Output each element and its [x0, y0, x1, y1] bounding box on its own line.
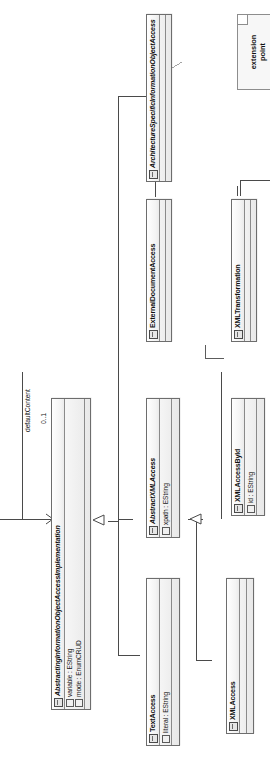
- class-external-document-access[interactable]: ExternalDocumentAccess: [146, 199, 172, 342]
- generalization-arrow-asioai: [93, 515, 104, 525]
- class-operations-compartment: [257, 399, 264, 515]
- class-operations-compartment: [172, 579, 179, 745]
- class-name: ArchitectureSpecificInformationObjectAcc…: [149, 20, 158, 168]
- class-name: AbstractXMLAccess: [149, 458, 158, 524]
- gen-xmlacc-to-absxml: [196, 519, 212, 660]
- class-icon: [149, 734, 158, 743]
- class-header: AbstractXMLAccess: [147, 399, 160, 537]
- generalization-arrow-absxml: [190, 514, 201, 524]
- attribute-icon: [162, 527, 170, 535]
- attribute-icon: [247, 505, 255, 513]
- class-xml-access-by-id[interactable]: XMLAccessById id : EString: [231, 398, 265, 516]
- class-name: XMLAccess: [229, 682, 238, 720]
- attribute-label: literal : EString: [162, 692, 170, 733]
- xmltransformation-wire-right: [240, 180, 270, 196]
- class-name: XMLTransformation: [234, 264, 243, 328]
- class-name: AbstractingInformationObjectAccessImplem…: [54, 525, 63, 696]
- attribute-icon: [162, 735, 170, 743]
- class-icon: [234, 330, 243, 339]
- class-operations-compartment: [85, 399, 90, 709]
- note-anchor-line: [172, 62, 182, 68]
- class-name: XMLAccessById: [234, 449, 243, 502]
- class-header: ArchitectureSpecificInformationObjectAcc…: [147, 15, 160, 181]
- class-text-access[interactable]: TextAccess literal : EString: [146, 578, 180, 746]
- class-icon: [149, 330, 158, 339]
- attribute-row: id : EString: [247, 401, 255, 513]
- class-header: AbstractingInformationObjectAccessImplem…: [52, 399, 65, 709]
- class-attributes-compartment: literal : EString: [160, 579, 172, 745]
- class-operations-compartment: [166, 200, 171, 341]
- attribute-label: mode : EnumCRUD: [75, 640, 83, 697]
- class-operations-compartment: [251, 200, 256, 341]
- class-abstracting-information-object-access-implementation[interactable]: AbstractingInformationObjectAccessImplem…: [51, 398, 91, 710]
- class-icon: [229, 722, 238, 731]
- class-attributes-compartment: variable : EString mode : EnumCRUD: [65, 399, 85, 709]
- class-attributes-compartment: id : EString: [245, 399, 257, 515]
- gen-eda-to-asioa: [148, 180, 155, 197]
- attribute-row: xpath : EString: [162, 401, 170, 535]
- class-icon: [149, 526, 158, 535]
- association-label-default-content: defaultContent: [24, 389, 32, 432]
- class-icon: [149, 170, 158, 179]
- class-icon: [54, 698, 63, 707]
- class-header: ExternalDocumentAccess: [147, 200, 160, 341]
- note-extension-point: extension point: [237, 14, 270, 90]
- class-header: XMLTransformation: [232, 200, 245, 341]
- association-multiplicity-label: 0..1: [40, 413, 48, 424]
- class-name: ExternalDocumentAccess: [149, 244, 158, 328]
- class-xml-access[interactable]: XMLAccess: [226, 578, 254, 734]
- class-architecture-specific-information-object-access[interactable]: ArchitectureSpecificInformationObjectAcc…: [146, 14, 172, 182]
- attribute-row: variable : EString: [66, 401, 74, 707]
- class-header: TextAccess: [147, 579, 160, 745]
- class-operations-compartment: [172, 399, 179, 537]
- class-abstract-xml-access[interactable]: AbstractXMLAccess xpath : EString: [146, 398, 180, 538]
- diagram-canvas: extension point ArchitectureSpecificInfo…: [0, 0, 270, 760]
- attribute-label: id : EString: [247, 472, 255, 503]
- class-xml-transformation[interactable]: XMLTransformation: [231, 199, 257, 342]
- class-attributes-compartment: xpath : EString: [160, 399, 172, 537]
- class-attributes-compartment: [240, 579, 247, 733]
- class-header: XMLAccess: [227, 579, 240, 733]
- class-icon: [234, 504, 243, 513]
- attribute-icon: [66, 699, 74, 707]
- gen-textacc-to-asioai: [118, 519, 140, 655]
- xmltransformation-wire-lower: [205, 345, 224, 358]
- attribute-label: xpath : EString: [162, 483, 170, 525]
- note-line: extension: [249, 35, 259, 70]
- attribute-row: mode : EnumCRUD: [75, 401, 83, 707]
- note-line: point: [258, 43, 268, 61]
- attribute-label: variable : EString: [66, 649, 74, 697]
- attribute-icon: [75, 699, 83, 707]
- attribute-row: literal : EString: [162, 581, 170, 743]
- class-operations-compartment: [247, 579, 253, 733]
- class-operations-compartment: [166, 15, 171, 181]
- class-header: XMLAccessById: [232, 399, 245, 515]
- class-name: TextAccess: [149, 695, 158, 732]
